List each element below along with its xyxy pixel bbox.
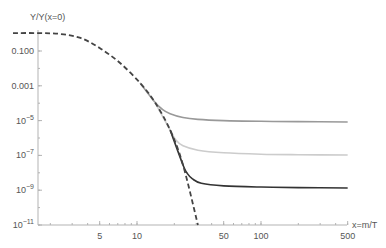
x-tick-label: 100: [253, 231, 268, 241]
x-tick-label: 500: [340, 231, 355, 241]
chart: 0.1000.00110−510−710−910−1151050100500 Y…: [0, 0, 386, 248]
x-tick-label: 5: [97, 231, 102, 241]
y-tick-label: 10−11: [13, 218, 34, 230]
series-group: [13, 33, 348, 225]
x-tick-label: 50: [219, 231, 229, 241]
y-tick-label: 10−7: [16, 148, 34, 160]
y-axis-title: Y/Y(x=0): [30, 12, 65, 22]
series-line-freeze-out-middle: [155, 102, 348, 155]
axes: 0.1000.00110−510−710−910−1151050100500: [11, 30, 355, 241]
x-axis-title: x=m/T: [352, 220, 378, 230]
series-line-freeze-out-upper: [140, 83, 348, 122]
x-tick-label: 10: [132, 231, 142, 241]
y-tick-label: 10−9: [16, 183, 34, 195]
y-tick-label: 10−5: [16, 114, 34, 126]
y-tick-label: 0.100: [11, 46, 34, 56]
y-tick-label: 0.001: [11, 81, 34, 91]
series-line-freeze-out-lower: [170, 130, 348, 188]
